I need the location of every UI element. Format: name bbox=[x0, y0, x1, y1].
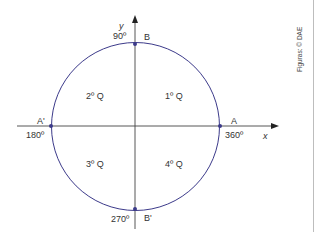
angle-180-label: 180º bbox=[26, 131, 44, 140]
unit-circle bbox=[52, 43, 220, 211]
y-axis-arrow-icon bbox=[132, 15, 138, 23]
quadrant-1-label: 1º Q bbox=[165, 92, 183, 101]
y-axis-label: y bbox=[119, 22, 124, 31]
angle-90-label: 90º bbox=[113, 32, 126, 41]
point-b-prime-label: B' bbox=[144, 214, 152, 223]
point-b-prime bbox=[133, 207, 137, 211]
point-a-prime bbox=[49, 124, 53, 128]
point-a-label: A bbox=[231, 117, 237, 126]
quadrant-4-label: 4º Q bbox=[165, 160, 183, 169]
figure-credit: Figuras: © DAE bbox=[296, 27, 303, 72]
point-b-label: B bbox=[144, 33, 150, 42]
point-a-prime-label: A' bbox=[37, 117, 45, 126]
angle-270-label: 270º bbox=[111, 215, 129, 224]
quadrant-3-label: 3º Q bbox=[86, 160, 104, 169]
trig-circle-figure bbox=[0, 0, 318, 239]
x-axis-arrow-icon bbox=[271, 123, 279, 129]
margin-divider bbox=[313, 0, 314, 232]
point-a bbox=[218, 124, 222, 128]
x-axis-label: x bbox=[263, 132, 268, 141]
angle-360-label: 360º bbox=[225, 131, 243, 140]
point-b bbox=[133, 42, 137, 46]
quadrant-2-label: 2º Q bbox=[86, 92, 104, 101]
